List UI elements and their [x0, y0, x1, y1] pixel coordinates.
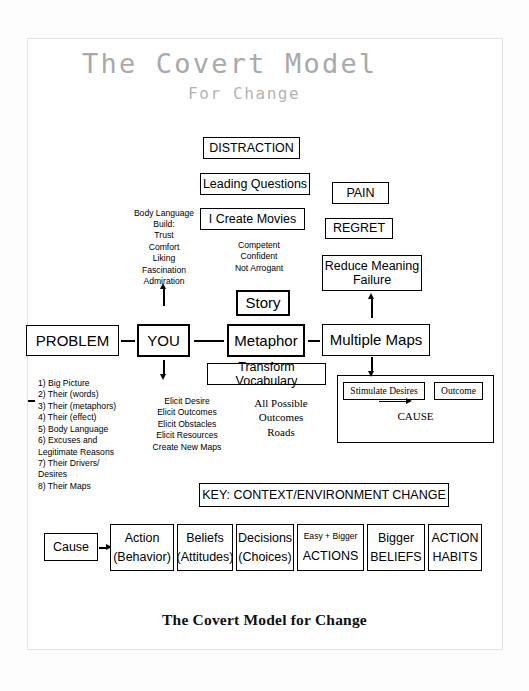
bottom-cell-top-label: Action [125, 531, 160, 545]
bottom-cell-6[interactable]: ACTIONHABITS [428, 524, 482, 571]
page-subtitle: For Change [188, 84, 300, 103]
connector-you-metaphor [194, 340, 224, 342]
bottom-cell-3[interactable]: Decisions(Choices) [236, 524, 294, 571]
box-you[interactable]: YOU [137, 324, 190, 357]
footer-caption: The Covert Model for Change [0, 611, 529, 629]
bottom-cell-top-label: Decisions [238, 531, 292, 545]
box-distraction[interactable]: DISTRACTION [203, 137, 300, 159]
connector-maps-to-reduce-arrow [368, 293, 374, 299]
box-stimulate-desires[interactable]: Stimulate Desires [343, 382, 425, 400]
box-pain[interactable]: PAIN [332, 182, 389, 204]
box-leading-questions[interactable]: Leading Questions [200, 173, 310, 195]
box-transform-vocabulary[interactable]: Transform Vocabulary [207, 363, 326, 385]
cause-group-label: CAUSE [337, 410, 494, 422]
connector-problem-you [121, 340, 135, 342]
bottom-cell-bottom-label: BELIEFS [370, 550, 421, 564]
box-story[interactable]: Story [236, 290, 290, 316]
connector-maps-to-reduce-line [371, 298, 373, 318]
elicit-list: Elicit Desire Elicit Outcomes Elicit Obs… [137, 396, 237, 453]
rapport-list-items: Build: Trust Comfort Liking Fascination … [118, 219, 210, 288]
box-multiple-maps[interactable]: Multiple Maps [322, 324, 430, 356]
connector-stimulate-arrow-head [406, 398, 412, 404]
scanned-page: The Covert Model For Change DISTRACTION … [0, 0, 529, 691]
bottom-cell-top-label: Bigger [378, 531, 414, 545]
bottom-cell-5[interactable]: BiggerBELIEFS [367, 524, 425, 571]
bottom-cell-top-label: ACTION [431, 531, 478, 545]
box-cause[interactable]: Cause [44, 533, 98, 561]
box-reduce-meaning-failure[interactable]: Reduce Meaning Failure [322, 255, 422, 291]
box-outcome[interactable]: Outcome [434, 382, 483, 400]
key-banner[interactable]: KEY: CONTEXT/ENVIRONMENT CHANGE [199, 483, 449, 507]
box-i-create-movies[interactable]: I Create Movies [200, 208, 305, 230]
box-metaphor[interactable]: Metaphor [227, 324, 305, 357]
bottom-cell-4[interactable]: Easy + BiggerACTIONS [297, 524, 364, 571]
connector-you-to-rapport-line [163, 288, 165, 306]
connector-metaphor-maps [308, 340, 320, 342]
page-title: The Covert Model [82, 48, 377, 79]
bottom-cell-bottom-label: ACTIONS [303, 549, 359, 563]
bottom-cell-bottom-label: (Choices) [238, 550, 292, 564]
bottom-cell-top-label: Beliefs [186, 531, 224, 545]
bottom-cell-2[interactable]: Beliefs(Attitudes) [177, 524, 233, 571]
state-list: Competent Confident Not Arrogant [213, 240, 305, 274]
bottom-cell-bottom-label: (Behavior) [113, 550, 171, 564]
connector-you-to-rapport-arrow [160, 283, 166, 289]
bottom-cell-1[interactable]: Action(Behavior) [110, 524, 174, 571]
discovery-list-marker [28, 400, 35, 402]
bottom-cell-bottom-label: HABITS [432, 550, 477, 564]
possibility-list: All Possible Outcomes Roads [240, 396, 322, 439]
box-regret[interactable]: REGRET [325, 218, 393, 239]
connector-stimulate-arrow-line [379, 401, 407, 402]
bottom-cell-top-label: Easy + Bigger [304, 532, 358, 542]
bottom-cell-bottom-label: (Attitudes) [177, 550, 234, 564]
connector-you-down-arrow [160, 374, 166, 380]
discovery-list: 1) Big Picture 2) Their (words) 3) Their… [38, 378, 148, 492]
rapport-list-heading: Body Language [118, 208, 210, 219]
box-problem[interactable]: PROBLEM [26, 325, 119, 356]
